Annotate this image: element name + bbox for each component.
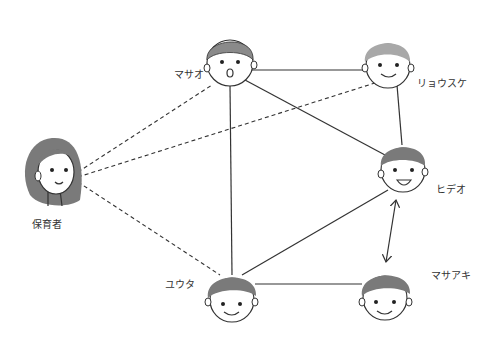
edge-hideo-masaaki-arrow [386, 200, 396, 262]
masaaki-figure [359, 275, 412, 320]
yuta-figure [205, 277, 258, 322]
edge-ryosuke-hideo [397, 85, 402, 145]
label-caregiver: 保育者 [32, 216, 62, 231]
dashed-edges [78, 82, 378, 275]
label-masao: マサオ [174, 66, 204, 81]
caregiver-figure [25, 138, 82, 206]
masao-figure [204, 40, 257, 86]
edges [230, 70, 402, 284]
edge-caregiver-yuta [78, 182, 220, 275]
relationship-diagram [0, 0, 496, 351]
label-hideo: ヒデオ [436, 181, 466, 196]
edge-hideo-yuta [242, 190, 388, 275]
label-masaaki: マサアキ [431, 267, 471, 282]
edge-caregiver-masao [78, 85, 212, 172]
edge-caregiver-ryosuke [78, 82, 378, 177]
ryosuke-figure [362, 43, 414, 88]
edge-masao-yuta [230, 85, 232, 275]
label-yuta: ユウタ [165, 276, 195, 291]
hideo-figure [378, 147, 428, 192]
label-ryosuke: リョウスケ [417, 75, 467, 90]
